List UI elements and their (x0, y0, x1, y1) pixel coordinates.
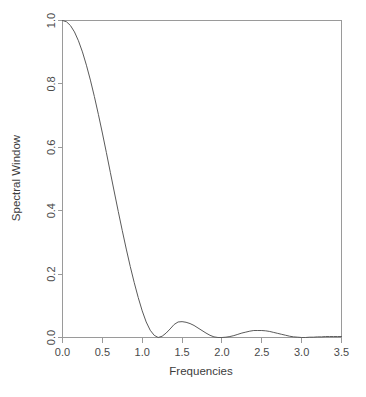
x-tick-label: 2.5 (254, 346, 269, 358)
x-tick-label: 1.0 (135, 346, 150, 358)
spectral-window-plot: 0.00.51.01.52.02.53.03.5 0.00.20.40.60.8… (0, 0, 366, 397)
x-tick-label: 1.5 (174, 346, 189, 358)
chart-canvas: 0.00.51.01.52.02.53.03.5 0.00.20.40.60.8… (0, 0, 366, 397)
y-tick-label: 0.8 (45, 76, 57, 91)
y-axis-title: Spectral Window (10, 134, 22, 221)
y-tick-label: 0.2 (45, 266, 57, 281)
y-tick-label: 1.0 (45, 13, 57, 28)
y-tick-label: 0.4 (45, 203, 57, 218)
y-tick-label: 0.0 (45, 330, 57, 345)
x-axis-title: Frequencies (169, 365, 233, 377)
y-tick-label: 0.6 (45, 140, 57, 155)
x-tick-label: 0.0 (55, 346, 70, 358)
x-tick-label: 0.5 (95, 346, 110, 358)
x-tick-label: 2.0 (214, 346, 229, 358)
x-tick-label: 3.0 (294, 346, 309, 358)
x-tick-label: 3.5 (334, 346, 349, 358)
